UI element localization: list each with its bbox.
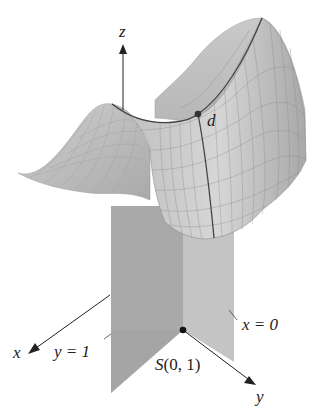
saddle-surface-figure: z d x y = 1 x = 0 y S(0, 1) xyxy=(0,0,315,412)
y-plane-label: y = 1 xyxy=(52,342,90,361)
surface-left-wing xyxy=(18,104,150,200)
point-s xyxy=(180,327,187,334)
z-axis xyxy=(119,44,127,110)
y-plane-leader-line xyxy=(104,334,111,339)
point-s-label: S(0, 1) xyxy=(155,355,200,374)
z-axis-label: z xyxy=(118,22,126,41)
point-d-label: d xyxy=(207,111,216,130)
x-plane-label: x = 0 xyxy=(241,315,279,334)
x-axis-label: x xyxy=(12,343,21,362)
y-axis-label: y xyxy=(254,387,264,406)
point-d xyxy=(195,111,202,118)
